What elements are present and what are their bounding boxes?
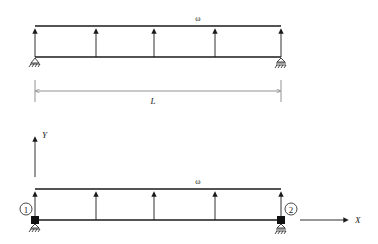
roller-support-icon xyxy=(275,58,286,68)
pin-support-icon xyxy=(29,58,40,67)
bottom-load-label: ω xyxy=(195,177,200,186)
node-2-square xyxy=(277,216,285,224)
beam-diagram: ω L Y ω xyxy=(0,0,378,244)
x-axis-label: X xyxy=(354,215,361,225)
length-label: L xyxy=(149,96,155,106)
y-axis-label: Y xyxy=(42,130,48,140)
pin-support-icon xyxy=(29,224,40,232)
top-load-arrows xyxy=(35,31,281,57)
roller-support-icon xyxy=(275,224,286,234)
bottom-beam-group: Y ω 1 xyxy=(20,130,361,234)
dimension-group: L xyxy=(35,80,281,106)
node-1-square xyxy=(31,216,39,224)
node-2-label: 2 xyxy=(289,205,294,215)
node-1-label: 1 xyxy=(24,205,29,215)
top-beam-group: ω xyxy=(29,14,286,68)
bottom-load-arrows xyxy=(35,194,281,220)
top-load-label: ω xyxy=(195,14,200,23)
